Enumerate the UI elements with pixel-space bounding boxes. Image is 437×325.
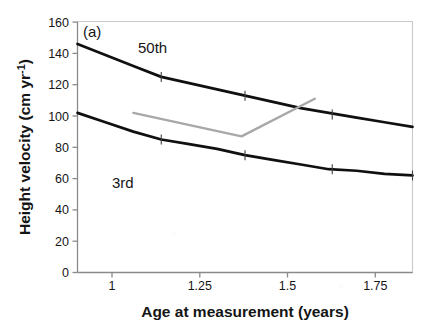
x-tick-label-1: 1 xyxy=(109,279,116,293)
y-tick-label-100: 100 xyxy=(48,110,69,124)
y-tick-label-40: 40 xyxy=(55,203,69,217)
y-axis-title-superscript: -1 xyxy=(15,64,27,74)
y-tick-label-160: 160 xyxy=(48,16,69,30)
y-tick-label-0: 0 xyxy=(62,266,69,280)
panel-label: (a) xyxy=(83,23,101,40)
svg-text:Height velocity (cm yr-1): Height velocity (cm yr-1) xyxy=(15,59,33,235)
height-velocity-chart: 0 20 40 60 80 100 120 140 160 1 1.25 1.5… xyxy=(0,0,437,325)
curve-label-3rd: 3rd xyxy=(112,174,134,191)
y-tick-label-20: 20 xyxy=(55,235,69,249)
figure-panel-a: 0 20 40 60 80 100 120 140 160 1 1.25 1.5… xyxy=(0,0,437,325)
y-tick-label-80: 80 xyxy=(55,141,69,155)
y-axis-title-tail: ) xyxy=(16,59,33,64)
curve-label-50th: 50th xyxy=(138,39,167,56)
x-tick-label-125: 1.25 xyxy=(188,279,212,293)
y-axis-title: Height velocity (cm yr-1) xyxy=(15,59,33,235)
y-tick-label-120: 120 xyxy=(48,78,69,92)
y-tick-label-140: 140 xyxy=(48,47,69,61)
x-tick-label-15: 1.5 xyxy=(279,279,296,293)
x-tick-label-175: 1.75 xyxy=(363,279,387,293)
y-tick-label-60: 60 xyxy=(55,172,69,186)
y-axis-title-main: Height velocity (cm yr xyxy=(16,74,33,235)
x-axis-title: Age at measurement (years) xyxy=(141,303,349,320)
